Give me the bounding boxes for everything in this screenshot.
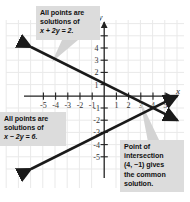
callout-line2-equation: All points are solutions of x − 2y = 6. xyxy=(0,112,66,146)
graph-figure: -5 -4 -3 -2 -1 1 2 3 4 5 5 4 3 2 1 -1 -2… xyxy=(0,0,190,202)
callout-right-line5: solution. xyxy=(124,180,180,189)
x-axis-label: x xyxy=(175,86,180,96)
callout-left-equation: x − 2y = 6. xyxy=(4,133,62,142)
x-tick-label: -4 xyxy=(52,101,59,110)
callout-right-line3: (4, −1) gives xyxy=(124,161,180,170)
x-tick-label: -3 xyxy=(64,101,71,110)
callout-top-equation: x + 2y = 2. xyxy=(40,27,96,36)
callout-left-line1: All points are xyxy=(4,115,62,124)
callout-right-line2: intersection xyxy=(124,152,180,161)
callout-pointers xyxy=(52,40,160,142)
y-tick-label: 2 xyxy=(94,68,98,77)
callout-line1-equation: All points are solutions of x + 2y = 2. xyxy=(36,6,100,40)
callout-left-line2: solutions of xyxy=(4,124,62,133)
y-tick-label: -5 xyxy=(93,153,100,162)
x-tick-label: 1 xyxy=(114,101,118,110)
x-tick-label: -5 xyxy=(40,101,47,110)
callout-top-line1: All points are xyxy=(40,9,96,18)
y-tick-label: 4 xyxy=(94,44,98,53)
y-tick-label: -4 xyxy=(93,141,100,150)
x-tick-label: -2 xyxy=(77,101,84,110)
y-tick-label: 3 xyxy=(94,56,98,65)
y-tick-label: -1 xyxy=(93,104,100,113)
callout-right-line1: Point of xyxy=(124,143,180,152)
callout-top-line2: solutions of xyxy=(40,18,96,27)
callout-right-line4: the common xyxy=(124,171,180,180)
y-tick-label: 1 xyxy=(94,81,98,90)
callout-intersection: Point of intersection (4, −1) gives the … xyxy=(120,140,184,192)
x-tick-label: 2 xyxy=(127,101,131,110)
y-tick-label: -2 xyxy=(93,116,100,125)
